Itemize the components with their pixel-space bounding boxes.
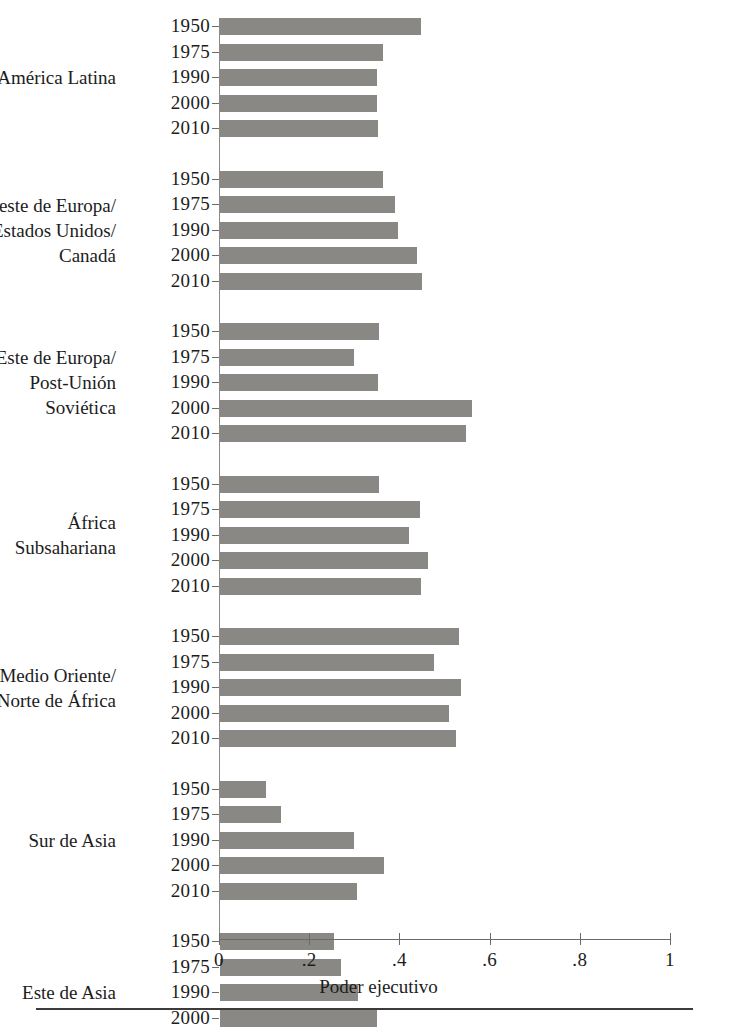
- y-axis-tick: [212, 687, 219, 688]
- y-axis-tick: [212, 586, 219, 587]
- x-axis-tick-label: .4: [379, 949, 419, 971]
- group-label: Oeste de Europa/Estados Unidos/Canadá: [0, 193, 116, 268]
- group-label-line: Subsahariana: [0, 535, 116, 560]
- bar: [220, 832, 354, 849]
- group-label-line: Soviética: [0, 395, 116, 420]
- group-label-line: Norte de África: [0, 688, 116, 713]
- y-axis-tick: [212, 103, 219, 104]
- y-axis-tick: [212, 382, 219, 383]
- x-axis-tick-label: 0: [199, 949, 239, 971]
- year-label: 2000: [120, 94, 210, 111]
- year-label: 1990: [120, 526, 210, 543]
- bar: [220, 69, 377, 86]
- bar: [220, 578, 421, 595]
- x-axis-tick-label: .8: [560, 949, 600, 971]
- x-axis-line: [219, 939, 671, 940]
- figure-caption: [36, 1014, 693, 1031]
- y-axis-tick: [212, 255, 219, 256]
- group-label-line: Sur de Asia: [0, 828, 116, 853]
- y-axis-tick: [212, 128, 219, 129]
- y-axis-tick: [212, 941, 219, 942]
- y-axis-tick: [212, 636, 219, 637]
- bar: [220, 476, 379, 493]
- footer-rule: [36, 1008, 693, 1010]
- group-label: Medio Oriente/Norte de África: [0, 663, 116, 713]
- year-label: 2000: [120, 704, 210, 721]
- y-axis-tick: [212, 357, 219, 358]
- group-label-line: Estados Unidos/: [0, 218, 116, 243]
- bar: [220, 730, 456, 747]
- year-label: 1990: [120, 373, 210, 390]
- y-axis-tick: [212, 560, 219, 561]
- y-axis-tick: [212, 713, 219, 714]
- group-label-line: África: [0, 510, 116, 535]
- bar: [220, 527, 409, 544]
- y-axis-tick: [212, 77, 219, 78]
- x-axis-tick: [309, 933, 310, 945]
- x-axis-tick: [580, 933, 581, 945]
- group-label: Sur de Asia: [0, 828, 116, 853]
- year-label: 1950: [120, 932, 210, 949]
- y-axis-tick: [212, 814, 219, 815]
- year-label: 2010: [120, 424, 210, 441]
- plot-area: 1950197519902000201019501975199020002010…: [0, 0, 729, 940]
- bar: [220, 44, 383, 61]
- year-label: 1950: [120, 17, 210, 34]
- year-label: 1990: [120, 221, 210, 238]
- x-axis-tick-label: .2: [289, 949, 329, 971]
- group-label: Este de Europa/Post-UniónSoviética: [0, 345, 116, 420]
- bar: [220, 95, 377, 112]
- year-label: 2010: [120, 882, 210, 899]
- year-label: 2010: [120, 577, 210, 594]
- bar: [220, 501, 420, 518]
- group-label-line: Post-Unión: [0, 370, 116, 395]
- y-axis-tick: [212, 535, 219, 536]
- y-axis-tick: [212, 281, 219, 282]
- bar: [220, 425, 466, 442]
- y-axis-tick: [212, 789, 219, 790]
- chart-figure: 1950197519902000201019501975199020002010…: [0, 0, 729, 1031]
- x-axis-tick: [490, 933, 491, 945]
- y-axis-tick: [212, 408, 219, 409]
- x-axis-tick: [399, 933, 400, 945]
- year-label: 1950: [120, 475, 210, 492]
- year-label: 1975: [120, 805, 210, 822]
- year-label: 2010: [120, 272, 210, 289]
- bar: [220, 552, 428, 569]
- y-axis-tick: [212, 738, 219, 739]
- year-label: 2000: [120, 551, 210, 568]
- group-label-line: Oeste de Europa/: [0, 193, 116, 218]
- y-axis-tick: [212, 662, 219, 663]
- bar: [220, 781, 266, 798]
- x-axis-title: Poder ejecutivo: [0, 976, 729, 998]
- year-label: 1975: [120, 958, 210, 975]
- group-label-line: Medio Oriente/: [0, 663, 116, 688]
- bar: [220, 323, 379, 340]
- year-label: 1950: [120, 322, 210, 339]
- year-label: 1950: [120, 627, 210, 644]
- bar: [220, 171, 383, 188]
- bar: [220, 400, 472, 417]
- x-axis-tick: [219, 933, 220, 945]
- group-label: ÁfricaSubsahariana: [0, 510, 116, 560]
- y-axis-tick: [212, 179, 219, 180]
- y-axis-tick: [212, 840, 219, 841]
- bar: [220, 883, 357, 900]
- y-axis-tick: [212, 331, 219, 332]
- bar: [220, 654, 434, 671]
- bar: [220, 679, 461, 696]
- x-axis-tick: [670, 933, 671, 945]
- year-label: 2000: [120, 246, 210, 263]
- year-label: 1975: [120, 500, 210, 517]
- year-label: 1950: [120, 780, 210, 797]
- year-label: 1975: [120, 43, 210, 60]
- bar: [220, 349, 354, 366]
- year-label: 1990: [120, 68, 210, 85]
- year-label: 1975: [120, 195, 210, 212]
- year-label: 1950: [120, 170, 210, 187]
- x-axis-tick-label: 1: [650, 949, 690, 971]
- bar: [220, 933, 334, 950]
- year-label: 1975: [120, 348, 210, 365]
- year-label: 2000: [120, 856, 210, 873]
- y-axis-tick: [212, 230, 219, 231]
